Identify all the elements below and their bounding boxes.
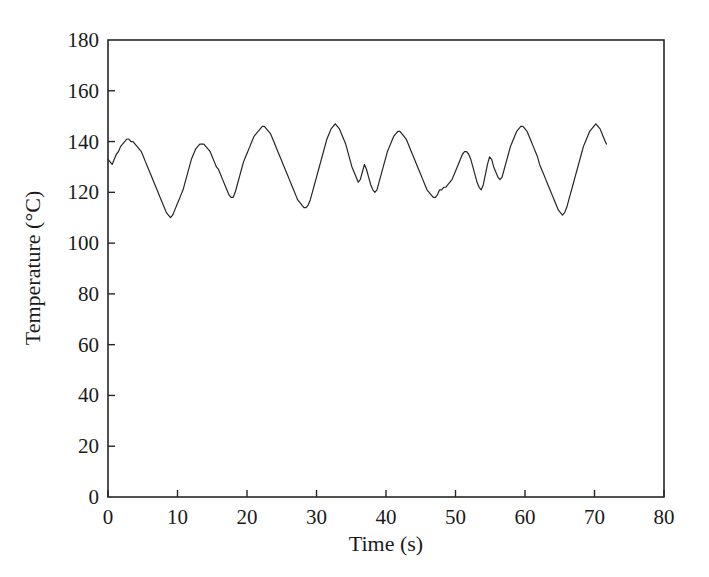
- y-tick-label: 20: [78, 436, 99, 457]
- y-tick-label: 140: [68, 131, 100, 152]
- x-tick-label: 50: [445, 507, 466, 528]
- y-tick-label: 0: [89, 487, 100, 508]
- data-series-layer: [108, 124, 606, 218]
- plot-area: [0, 0, 709, 577]
- x-axis-ticks: [108, 490, 664, 497]
- y-axis-title: Temperature (°C): [22, 191, 44, 345]
- y-tick-label: 60: [78, 334, 99, 355]
- y-tick-label: 40: [78, 385, 99, 406]
- y-tick-label: 180: [68, 30, 100, 51]
- x-axis-title: Time (s): [349, 533, 423, 555]
- plot-border: [108, 40, 664, 497]
- y-tick-label: 100: [68, 233, 100, 254]
- x-tick-label: 30: [306, 507, 327, 528]
- x-tick-label: 60: [515, 507, 536, 528]
- chart-figure: 01020304050607080 0204060801001201401601…: [0, 0, 709, 577]
- y-tick-label: 160: [68, 80, 100, 101]
- y-tick-label: 80: [78, 283, 99, 304]
- x-tick-label: 80: [654, 507, 675, 528]
- x-tick-label: 10: [167, 507, 188, 528]
- x-tick-label: 20: [237, 507, 258, 528]
- x-tick-label: 0: [103, 507, 114, 528]
- y-axis-ticks: [108, 91, 115, 446]
- x-tick-label: 40: [376, 507, 397, 528]
- temperature-line: [108, 124, 606, 218]
- axes-frame: [108, 40, 664, 497]
- y-tick-label: 120: [68, 182, 100, 203]
- x-tick-label: 70: [584, 507, 605, 528]
